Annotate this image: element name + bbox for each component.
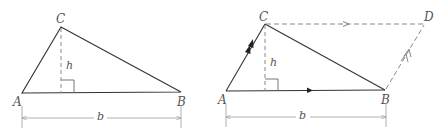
label-vertex-b: B [381, 94, 390, 106]
label-vertex-b: B [177, 96, 186, 108]
right-angle-mark [61, 80, 74, 93]
parallelogram-figure [226, 22, 424, 128]
label-vertex-d: D [424, 11, 434, 23]
label-base-b: b [299, 110, 306, 121]
label-base-b: b [97, 111, 104, 122]
label-vertex-a: A [218, 94, 227, 106]
single-arrow-ab-icon [307, 88, 313, 94]
label-vertex-a: A [13, 96, 22, 108]
label-vertex-c: C [259, 11, 268, 23]
diagonal-cb [265, 24, 385, 90]
right-angle-mark [265, 79, 278, 91]
label-height-h: h [270, 57, 277, 68]
side-ab [226, 90, 385, 91]
diagram-stage: C h A B b C D h A B b [0, 0, 441, 139]
label-vertex-c: C [56, 13, 65, 25]
side-bd [386, 25, 424, 89]
side-ac [226, 24, 265, 91]
label-height-h: h [66, 60, 73, 71]
triangle-abc [22, 27, 181, 93]
